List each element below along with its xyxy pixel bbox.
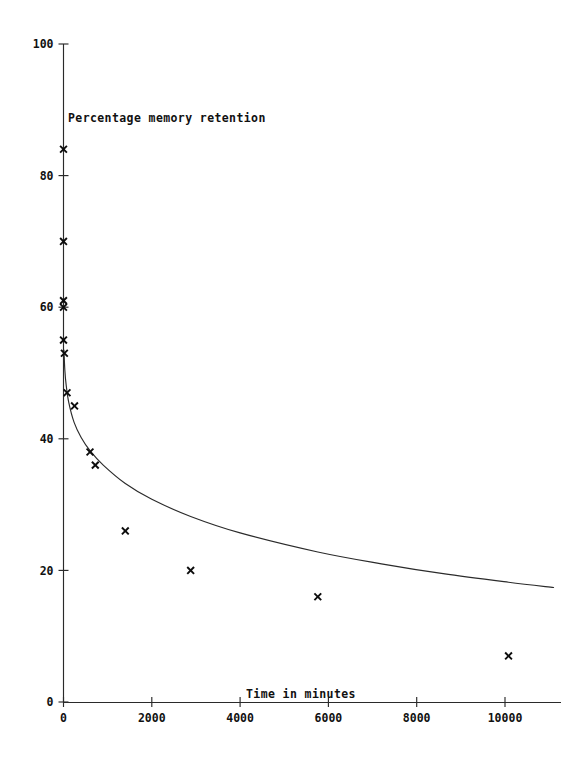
data-point-marker — [505, 653, 512, 660]
y-tick-label: 40 — [40, 432, 54, 446]
data-point-marker — [122, 528, 129, 535]
y-axis-title: Percentage memory retention — [68, 111, 266, 125]
y-axis-tick-labels: 020406080100 — [33, 37, 54, 709]
x-tick-label: 10000 — [488, 711, 523, 725]
y-tick-label: 60 — [40, 300, 54, 314]
y-tick-label: 0 — [47, 695, 54, 709]
y-tick-label: 20 — [40, 564, 54, 578]
x-tick-label: 6000 — [315, 711, 343, 725]
data-point-marker — [187, 567, 194, 574]
x-axis-tick-labels: 0200040006000800010000 — [60, 711, 522, 725]
data-point-marker — [71, 403, 78, 410]
data-point-markers — [60, 146, 512, 659]
memory-retention-chart: 020406080100 0200040006000800010000 Perc… — [0, 0, 577, 770]
y-tick-label: 80 — [40, 169, 54, 183]
data-point-marker — [92, 462, 99, 469]
chart-canvas: 020406080100 0200040006000800010000 Perc… — [0, 0, 577, 770]
fitted-curve — [64, 350, 554, 588]
y-axis-group: 020406080100 — [33, 37, 69, 709]
data-point-marker — [87, 449, 94, 456]
x-tick-label: 4000 — [226, 711, 254, 725]
x-tick-label: 2000 — [138, 711, 166, 725]
data-point-marker — [314, 593, 321, 600]
x-tick-label: 0 — [60, 711, 67, 725]
x-axis-title: Time in minutes — [246, 687, 356, 701]
x-axis-group: 0200040006000800010000 — [60, 697, 561, 725]
x-tick-label: 8000 — [403, 711, 431, 725]
y-tick-label: 100 — [33, 37, 54, 51]
